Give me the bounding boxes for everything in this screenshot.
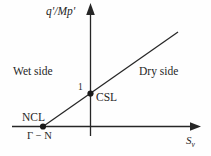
y-axis-label: q'/Mp': [46, 6, 75, 18]
x-axis-label: Sv: [186, 135, 195, 149]
csl-point-marker: [87, 90, 93, 96]
wet-side-label: Wet side: [13, 66, 53, 78]
x-axis-arrowhead: [190, 122, 201, 131]
y-axis-label-text: q'/Mp': [46, 5, 75, 17]
unit-slope-label: 1: [78, 83, 83, 93]
critical-state-line-figure: q'/Mp' Sv Wet side Dry side 1 CSL NCL Γ …: [0, 0, 211, 156]
csl-line: [43, 32, 178, 127]
dry-side-label: Dry side: [139, 66, 178, 78]
ncl-point-marker: [40, 123, 46, 129]
y-axis-arrowhead: [86, 3, 95, 15]
gamma-minus-n-label: Γ − N: [27, 131, 52, 142]
x-axis-label-subscript: v: [192, 140, 195, 149]
ncl-label: NCL: [22, 112, 45, 124]
csl-label: CSL: [96, 92, 117, 104]
